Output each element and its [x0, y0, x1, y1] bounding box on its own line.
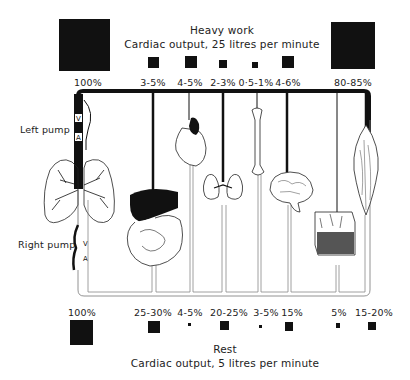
rest-total-square	[70, 320, 93, 345]
right-pump-icon: V A	[73, 190, 88, 270]
rest-kidney-label: 20-25%	[210, 307, 248, 318]
rest-skin-square	[336, 323, 340, 328]
rest-bone-square	[259, 325, 262, 328]
svg-text:A: A	[76, 134, 81, 142]
brain-icon	[270, 172, 313, 212]
rest-brain-label: 15%	[281, 307, 303, 318]
svg-text:V: V	[76, 115, 81, 123]
liver-gut-icon	[127, 189, 182, 266]
skin-icon	[315, 212, 355, 255]
rest-muscle-label: 15-20%	[355, 307, 393, 318]
rest-brain-square	[285, 322, 293, 331]
rest-muscle-square	[368, 322, 376, 330]
rest-title: Rest	[213, 343, 237, 355]
right-pump-label: Right pump	[18, 239, 75, 250]
svg-text:A: A	[83, 255, 88, 263]
muscle-icon	[354, 125, 379, 215]
rest-subtitle: Cardiac output, 5 litres per minute	[131, 357, 319, 369]
rest-kidney-square	[220, 321, 229, 330]
rest-gut-label: 25-30%	[134, 307, 172, 318]
svg-text:V: V	[83, 240, 88, 248]
rest-bone-label: 3-5%	[253, 307, 278, 318]
rest-total-label: 100%	[68, 307, 96, 318]
rest-gut-square	[148, 321, 160, 333]
bone-icon	[252, 108, 264, 175]
rest-heart-square	[188, 323, 191, 326]
circulation-diagram: V A V A	[0, 0, 410, 380]
rest-heart-label: 4-5%	[177, 307, 202, 318]
heart-icon	[176, 118, 206, 166]
left-pump-icon: V A	[74, 94, 91, 189]
left-pump-label: Left pump	[20, 124, 70, 135]
rest-skin-label: 5%	[331, 307, 346, 318]
